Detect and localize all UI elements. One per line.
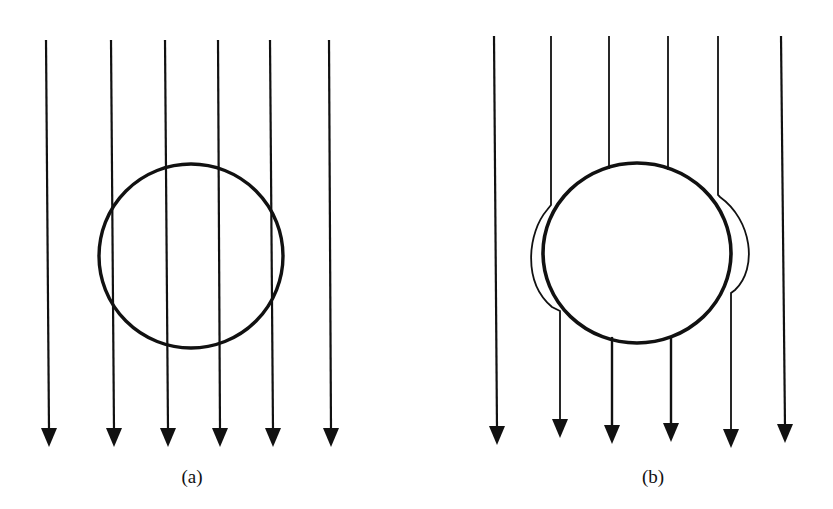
down-arrow-icon bbox=[777, 424, 793, 443]
panel-b-expelled-field bbox=[489, 36, 793, 448]
down-arrow-icon bbox=[265, 428, 281, 447]
field-line bbox=[41, 40, 57, 447]
panel-a-caption: (a) bbox=[181, 466, 202, 488]
field-line bbox=[489, 36, 505, 445]
down-arrow-icon bbox=[323, 428, 339, 447]
field-line bbox=[604, 36, 620, 444]
sphere-outline bbox=[543, 163, 731, 343]
down-arrow-icon bbox=[723, 429, 739, 448]
down-arrow-icon bbox=[552, 419, 568, 438]
down-arrow-icon bbox=[41, 428, 57, 447]
panel-b-caption: (b) bbox=[642, 466, 664, 488]
down-arrow-icon bbox=[212, 428, 228, 447]
field-line bbox=[212, 40, 228, 447]
field-line bbox=[663, 36, 679, 442]
down-arrow-icon bbox=[604, 425, 620, 444]
field-line bbox=[718, 36, 749, 448]
field-line bbox=[106, 40, 122, 447]
flux-exclusion-figure bbox=[0, 0, 833, 509]
down-arrow-icon bbox=[160, 428, 176, 447]
field-line bbox=[265, 40, 281, 447]
down-arrow-icon bbox=[106, 428, 122, 447]
field-line bbox=[531, 36, 568, 438]
field-line bbox=[160, 40, 176, 447]
sphere-outline bbox=[99, 164, 283, 348]
field-line bbox=[323, 40, 339, 447]
panel-a-uniform-field bbox=[41, 40, 339, 447]
field-line bbox=[777, 36, 793, 443]
down-arrow-icon bbox=[663, 423, 679, 442]
down-arrow-icon bbox=[489, 426, 505, 445]
